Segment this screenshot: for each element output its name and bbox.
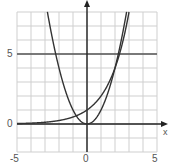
x-tick-label-5: 5 [152,153,158,164]
x-tick-label-neg5: -5 [10,153,19,164]
x-axis-label: x [163,127,168,137]
y-tick-label-0: 0 [7,118,13,129]
x-tick-label-0: 0 [83,153,89,164]
chart: 5 0 -5 0 5 x [0,0,171,167]
y-axis-arrow-icon [84,0,90,7]
y-tick-label-5: 5 [7,48,13,59]
